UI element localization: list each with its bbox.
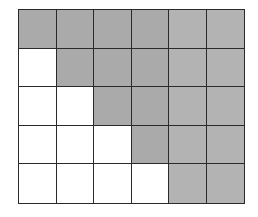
unshaded-cell — [57, 164, 95, 203]
shaded-cell — [207, 87, 245, 126]
unshaded-cell — [19, 49, 57, 88]
shaded-cell — [132, 10, 170, 49]
shaded-cell — [132, 126, 170, 165]
shaded-cell — [94, 87, 132, 126]
unshaded-cell — [19, 87, 57, 126]
unshaded-cell — [94, 126, 132, 165]
shaded-cell — [132, 49, 170, 88]
unshaded-cell — [57, 126, 95, 165]
shaded-cell — [207, 10, 245, 49]
shaded-cell — [94, 10, 132, 49]
shaded-cell — [207, 49, 245, 88]
shaded-cell — [169, 49, 207, 88]
shaded-cell — [57, 10, 95, 49]
unshaded-cell — [94, 164, 132, 203]
unshaded-cell — [57, 87, 95, 126]
diagram-canvas — [0, 0, 258, 217]
shaded-cell — [169, 87, 207, 126]
shaded-cell — [94, 49, 132, 88]
unshaded-cell — [132, 164, 170, 203]
shaded-cell — [169, 10, 207, 49]
unshaded-cell — [19, 164, 57, 203]
shaded-cell — [19, 10, 57, 49]
shaded-cell — [169, 164, 207, 203]
shaded-cell — [207, 126, 245, 165]
unshaded-cell — [19, 126, 57, 165]
shaded-grid — [18, 9, 245, 204]
shaded-cell — [169, 126, 207, 165]
shaded-cell — [207, 164, 245, 203]
shaded-cell — [57, 49, 95, 88]
shaded-cell — [132, 87, 170, 126]
